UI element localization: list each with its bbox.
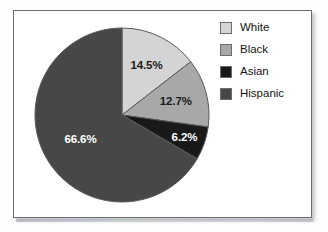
legend-swatch-asian <box>220 66 232 78</box>
chart-legend: White Black Asian Hispanic <box>220 17 312 105</box>
legend-item-black[interactable]: Black <box>220 39 312 61</box>
legend-label-asian: Asian <box>240 66 269 78</box>
legend-label-white: White <box>240 22 269 34</box>
legend-swatch-white <box>220 22 232 34</box>
legend-swatch-hispanic <box>220 88 232 100</box>
legend-swatch-black <box>220 44 232 56</box>
pie-data-label-asian: 6.2% <box>172 131 198 143</box>
pie-data-label-white: 14.5% <box>130 59 162 71</box>
pie-data-label-black: 12.7% <box>160 95 192 107</box>
plot-area: 14.5%12.7%6.2%66.6% White Black Asian <box>14 11 313 219</box>
legend-item-white[interactable]: White <box>220 17 312 39</box>
pie-slice-group <box>35 28 209 202</box>
chart-frame: 14.5%12.7%6.2%66.6% White Black Asian <box>13 10 312 218</box>
legend-item-asian[interactable]: Asian <box>220 61 312 83</box>
scan-fringe <box>16 219 313 222</box>
pie-data-label-hispanic: 66.6% <box>64 133 96 145</box>
pie-chart: 14.5%12.7%6.2%66.6% <box>18 13 232 217</box>
legend-item-hispanic[interactable]: Hispanic <box>220 83 312 105</box>
legend-label-hispanic: Hispanic <box>240 88 284 100</box>
pie-chart-figure: 14.5%12.7%6.2%66.6% White Black Asian <box>0 0 328 232</box>
legend-label-black: Black <box>240 44 268 56</box>
